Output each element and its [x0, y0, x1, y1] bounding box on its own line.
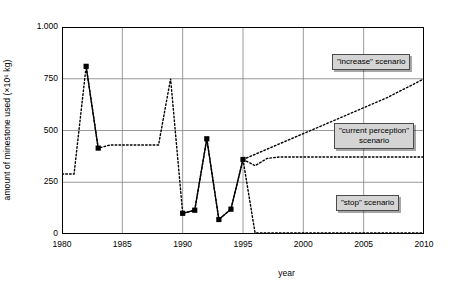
data-point-marker	[228, 207, 233, 212]
y-tick-label: 1.000	[20, 22, 58, 31]
chart-figure: amount of minestone used (×10⁶ kg) 02505…	[0, 0, 453, 290]
data-point-marker	[204, 136, 209, 141]
y-tick-label: 250	[20, 177, 58, 186]
data-point-marker	[96, 145, 101, 150]
data-point-marker	[180, 211, 185, 216]
annotation-stop-scenario: "stop" scenario	[336, 195, 399, 211]
data-point-marker	[240, 157, 245, 162]
x-axis-title-text: year	[278, 268, 295, 278]
x-tick-label: 1980	[42, 239, 82, 249]
x-axis-title: year	[0, 268, 453, 278]
y-axis-title-text: amount of minestone used (×10⁶ kg)	[2, 30, 12, 230]
annotation-current-perception-scenario: "current perception" scenario	[334, 123, 414, 149]
x-tick-label: 2000	[283, 239, 323, 249]
x-tick-label: 1985	[102, 239, 142, 249]
series-line--current-perception-scenario	[243, 157, 424, 166]
x-tick-label: 2010	[404, 239, 444, 249]
data-point-marker	[84, 64, 89, 69]
x-tick-label: 1990	[163, 239, 203, 249]
y-tick-label: 0	[20, 229, 58, 238]
annotation-current-line-1: scenario	[339, 136, 409, 146]
series-line-measured	[183, 139, 243, 220]
annotation-increase-line-0: "increase" scenario	[337, 57, 405, 67]
x-tick-label: 2005	[344, 239, 384, 249]
annotation-current-line-0: "current perception"	[339, 126, 409, 136]
data-point-marker	[192, 208, 197, 213]
annotation-stop-line-0: "stop" scenario	[341, 198, 394, 208]
data-point-marker	[216, 217, 221, 222]
y-tick-label: 500	[20, 126, 58, 135]
y-tick-label: 750	[20, 74, 58, 83]
x-tick-label: 1995	[223, 239, 263, 249]
annotation-increase-scenario: "increase" scenario	[332, 54, 410, 70]
